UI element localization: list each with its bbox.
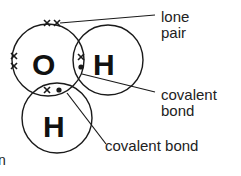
- bond-pair-right: [78, 54, 84, 70]
- covalent-bond-right-label-line2: bond: [161, 102, 194, 119]
- lone-pair-label-line1: lone: [161, 8, 189, 25]
- oxygen-symbol: O: [32, 48, 55, 81]
- covalent-bond-bottom-label: covalent bond: [105, 137, 198, 154]
- hydrogen-bottom-symbol: H: [43, 110, 65, 143]
- lone-pair-label-line2: pair: [161, 24, 186, 41]
- cropped-text-fragment: n: [0, 152, 6, 168]
- lone-pair-leader: [60, 15, 155, 23]
- covalent-bond-right-leader: [82, 74, 155, 92]
- water-molecule-diagram: O H H lone pair covalent bond covalent b…: [0, 0, 241, 176]
- covalent-bond-right-label-line1: covalent: [161, 86, 218, 103]
- bond-pair-bottom: [44, 87, 62, 93]
- hydrogen-right-symbol: H: [93, 48, 115, 81]
